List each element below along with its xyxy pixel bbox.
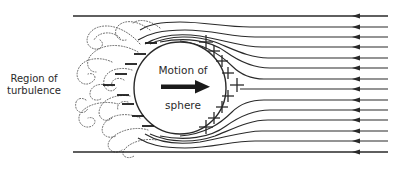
plus-icon (230, 78, 244, 92)
arrow-icon (352, 108, 360, 113)
sphere-label: sphere (150, 99, 216, 112)
region-label-line2: turbulence (2, 85, 66, 97)
region-label-line1: Region of (2, 73, 66, 85)
flow-arrows (352, 14, 360, 155)
arrow-icon (352, 25, 360, 30)
arrow-icon (352, 118, 360, 123)
region-of-turbulence-label: Region of turbulence (2, 73, 66, 97)
motion-of-label: Motion of (150, 64, 216, 77)
streamlines (73, 16, 388, 152)
arrow-icon (352, 35, 360, 40)
arrow-icon (352, 45, 360, 50)
arrow-icon (352, 56, 360, 61)
sphere-flow-diagram: Region of turbulence Motion of sphere (0, 0, 405, 171)
arrow-icon (352, 66, 360, 71)
arrow-icon (352, 150, 360, 155)
arrow-icon (352, 139, 360, 144)
arrow-icon (352, 77, 360, 82)
arrow-icon (352, 87, 360, 92)
arrow-icon (352, 129, 360, 134)
arrow-icon (352, 98, 360, 103)
arrow-icon (352, 14, 360, 19)
